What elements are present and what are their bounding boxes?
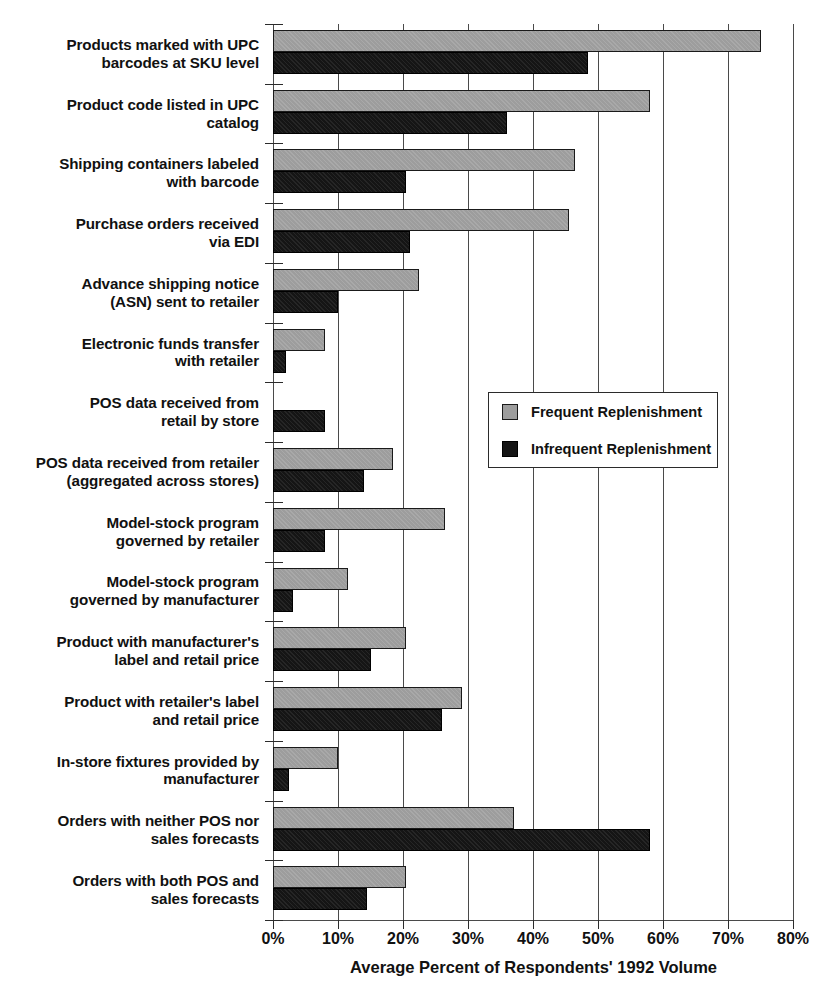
- category-label-5: Electronic funds transferwith retailer: [0, 323, 268, 383]
- category-tick-11: [265, 681, 283, 682]
- bar-chart: Products marked with UPCbarcodes at SKU …: [0, 0, 827, 1003]
- legend-swatch-frequent-icon: [502, 404, 518, 420]
- legend-item-frequent: Frequent Replenishment: [489, 393, 717, 430]
- gridline-70: [728, 24, 729, 920]
- bar-infrequent-9: [273, 590, 293, 612]
- bar-infrequent-1: [273, 112, 507, 134]
- category-label-line: and retail price: [64, 711, 259, 729]
- gridline-80: [793, 24, 794, 920]
- bar-frequent-3: [273, 209, 569, 231]
- x-tick-label-40: 40%: [503, 930, 563, 948]
- category-label-0: Products marked with UPCbarcodes at SKU …: [0, 24, 268, 84]
- bar-infrequent-11: [273, 709, 442, 731]
- bar-frequent-0: [273, 30, 761, 52]
- category-label-8: Model-stock programgoverned by retailer: [0, 502, 268, 562]
- category-label-line: POS data received from: [90, 394, 259, 412]
- category-tick-6: [265, 382, 283, 383]
- category-label-line: governed by manufacturer: [70, 591, 259, 609]
- bar-frequent-12: [273, 747, 338, 769]
- category-label-line: Products marked with UPC: [66, 36, 259, 54]
- x-tick-label-20: 20%: [373, 930, 433, 948]
- category-label-line: Product with retailer's label: [64, 693, 259, 711]
- x-tick-label-60: 60%: [633, 930, 693, 948]
- bar-frequent-13: [273, 807, 514, 829]
- x-tick-30: [468, 920, 469, 929]
- bar-frequent-14: [273, 866, 406, 888]
- category-label-line: with barcode: [59, 173, 259, 191]
- category-label-line: Orders with neither POS nor: [57, 812, 259, 830]
- bar-infrequent-5: [273, 351, 286, 373]
- bar-frequent-8: [273, 508, 445, 530]
- category-label-line: barcodes at SKU level: [66, 54, 259, 72]
- bar-infrequent-14: [273, 888, 367, 910]
- x-tick-60: [663, 920, 664, 929]
- bar-frequent-5: [273, 329, 325, 351]
- category-label-line: label and retail price: [56, 651, 259, 669]
- category-label-line: Electronic funds transfer: [82, 335, 259, 353]
- x-tick-10: [338, 920, 339, 929]
- x-tick-0: [273, 920, 274, 929]
- legend-swatch-infrequent-icon: [502, 441, 518, 457]
- category-label-line: via EDI: [76, 233, 259, 251]
- category-label-2: Shipping containers labeledwith barcode: [0, 143, 268, 203]
- category-tick-1: [265, 84, 283, 85]
- category-tick-14: [265, 860, 283, 861]
- legend-label-frequent: Frequent Replenishment: [531, 404, 702, 420]
- gridline-60: [663, 24, 664, 920]
- category-label-4: Advance shipping notice(ASN) sent to ret…: [0, 263, 268, 323]
- bar-infrequent-7: [273, 470, 364, 492]
- category-label-line: Orders with both POS and: [72, 872, 259, 890]
- category-tick-0: [265, 24, 283, 25]
- category-label-6: POS data received fromretail by store: [0, 382, 268, 442]
- category-tick-13: [265, 801, 283, 802]
- category-label-1: Product code listed in UPCcatalog: [0, 84, 268, 144]
- plot-area: [273, 24, 793, 920]
- x-tick-80: [793, 920, 794, 929]
- category-label-7: POS data received from retailer(aggregat…: [0, 442, 268, 502]
- category-label-9: Model-stock programgoverned by manufactu…: [0, 561, 268, 621]
- category-label-line: Model-stock program: [106, 514, 259, 532]
- bar-infrequent-12: [273, 769, 289, 791]
- category-label-column: Products marked with UPCbarcodes at SKU …: [0, 24, 268, 920]
- category-label-line: POS data received from retailer: [36, 454, 259, 472]
- x-tick-label-0: 0%: [243, 930, 303, 948]
- category-label-13: Orders with neither POS norsales forecas…: [0, 800, 268, 860]
- category-tick-2: [265, 143, 283, 144]
- category-label-line: sales forecasts: [57, 830, 259, 848]
- category-tick-9: [265, 562, 283, 563]
- category-label-line: In-store fixtures provided by: [57, 753, 259, 771]
- bar-infrequent-4: [273, 291, 338, 313]
- category-label-14: Orders with both POS andsales forecasts: [0, 860, 268, 920]
- category-label-line: Advance shipping notice: [82, 275, 259, 293]
- category-label-line: Product with manufacturer's: [56, 633, 259, 651]
- bar-infrequent-13: [273, 829, 650, 851]
- x-tick-40: [533, 920, 534, 929]
- category-label-line: manufacturer: [57, 770, 259, 788]
- category-tick-end: [265, 920, 283, 921]
- category-label-line: (aggregated across stores): [36, 472, 259, 490]
- category-label-line: retail by store: [90, 412, 259, 430]
- category-label-line: with retailer: [82, 352, 259, 370]
- category-label-line: (ASN) sent to retailer: [82, 293, 259, 311]
- bar-infrequent-2: [273, 171, 406, 193]
- category-tick-12: [265, 741, 283, 742]
- x-axis-title: Average Percent of Respondents' 1992 Vol…: [273, 958, 794, 977]
- category-label-line: Shipping containers labeled: [59, 155, 259, 173]
- x-tick-label-70: 70%: [698, 930, 758, 948]
- x-tick-50: [598, 920, 599, 929]
- bar-frequent-7: [273, 448, 393, 470]
- category-tick-4: [265, 263, 283, 264]
- category-label-line: Product code listed in UPC: [67, 96, 259, 114]
- x-tick-label-50: 50%: [568, 930, 628, 948]
- category-tick-8: [265, 502, 283, 503]
- category-label-line: governed by retailer: [106, 532, 259, 550]
- category-tick-5: [265, 323, 283, 324]
- category-label-line: sales forecasts: [72, 890, 259, 908]
- x-tick-70: [728, 920, 729, 929]
- bar-infrequent-8: [273, 530, 325, 552]
- category-tick-10: [265, 621, 283, 622]
- chart-legend: Frequent Replenishment Infrequent Replen…: [488, 392, 718, 468]
- x-tick-label-80: 80%: [763, 930, 823, 948]
- x-tick-20: [403, 920, 404, 929]
- x-tick-label-30: 30%: [438, 930, 498, 948]
